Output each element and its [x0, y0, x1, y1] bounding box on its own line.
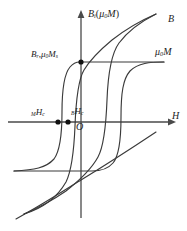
y-axis-arrowhead [78, 10, 85, 18]
remanence-label: Br,μ0Ms [31, 50, 58, 60]
hysteresis-figure: Bi(μ0M) B μ0M Br,μ0Ms MHc BHc O H [0, 0, 187, 231]
axes-group [8, 18, 168, 218]
intrinsic-coercivity-label-subscript: c [42, 111, 44, 117]
remanence-label-m-subscript: s [56, 53, 58, 59]
normal-coercivity-label-subscript: c [81, 110, 83, 116]
b-curve-label-text: B [168, 13, 174, 24]
origin-label: O [76, 122, 83, 132]
y-axis-label: Bi(μ0M) [88, 9, 119, 20]
intrinsic-coercivity-marker [55, 119, 60, 124]
remanence-label-m: M [48, 49, 56, 59]
normal-coercivity-label: BHc [71, 107, 83, 117]
origin-label-text: O [76, 121, 83, 132]
y-axis-label-m: M [107, 8, 115, 19]
b-curve-label: B [168, 14, 174, 24]
y-axis-label-paren-close: ) [116, 8, 119, 19]
b-linear-line [16, 132, 156, 219]
x-axis-label-text: H [172, 110, 179, 121]
mu0m-curve-label: μ0M [155, 47, 171, 58]
intrinsic-coercivity-label: MHc [31, 108, 45, 118]
remanence-point-marker [78, 59, 83, 64]
mu0m-curve-label-m: M [163, 46, 171, 57]
x-axis-label: H [172, 111, 179, 121]
hysteresis-plot-svg [0, 0, 187, 231]
normal-coercivity-marker [65, 119, 70, 124]
